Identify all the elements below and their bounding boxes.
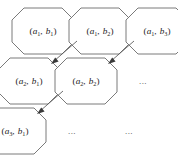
cell-label-r2c2: (a2, b2) [73, 76, 100, 87]
cell-label-r1c3: (a1, b3) [144, 26, 171, 37]
figure-canvas: (a1, b1) (a1, b2) (a1, b3) (a2, b1) (a2,… [0, 0, 178, 159]
cell-label-r1c2: (a1, b2) [87, 26, 114, 37]
cell-label-r1c1: (a1, b1) [30, 26, 57, 37]
pair-enumeration-diagram: (a1, b1) (a1, b2) (a1, b3) (a2, b1) (a2,… [0, 0, 178, 159]
ellipsis-r3c2: ... [68, 126, 76, 136]
ellipsis-r2c3: ... [139, 76, 147, 86]
cell-label-r3c1: (a3, b1) [2, 126, 29, 137]
ellipsis-r3c3: ... [125, 126, 133, 136]
cell-label-r2c1: (a2, b1) [16, 76, 43, 87]
